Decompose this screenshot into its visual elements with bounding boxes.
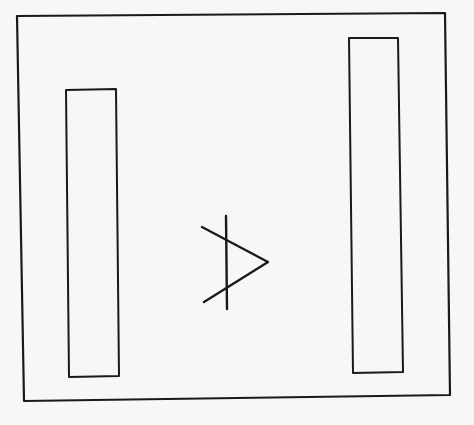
outer-frame xyxy=(17,13,450,401)
diagram-canvas xyxy=(0,0,474,425)
center-arrowhead-icon xyxy=(202,216,268,309)
left-bar xyxy=(66,89,119,377)
diagram-figure xyxy=(0,0,474,425)
vertical-line xyxy=(226,216,227,309)
chevron-right-icon xyxy=(202,227,268,302)
right-bar xyxy=(349,38,403,373)
